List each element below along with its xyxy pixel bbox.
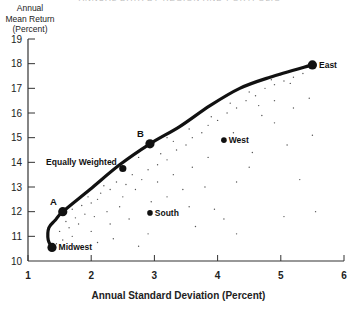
portfolio-dot bbox=[68, 227, 69, 228]
portfolio-dot bbox=[62, 239, 63, 240]
portfolio-dot bbox=[166, 159, 167, 160]
x-tick-label: 1 bbox=[25, 270, 31, 281]
portfolio-dot bbox=[94, 216, 95, 217]
portfolio-dot bbox=[302, 73, 303, 74]
portfolio-dot bbox=[211, 116, 212, 117]
portfolio-dot bbox=[91, 202, 92, 203]
portfolio-dot bbox=[261, 115, 262, 116]
label-west: West bbox=[229, 135, 249, 145]
portfolio-dot bbox=[182, 189, 183, 190]
portfolio-dot bbox=[109, 189, 110, 190]
label-east: East bbox=[319, 60, 337, 70]
portfolio-dot bbox=[91, 231, 92, 232]
portfolio-dot bbox=[75, 217, 76, 218]
portfolio-dot bbox=[59, 231, 60, 232]
y-tick-label: 16 bbox=[11, 108, 23, 119]
portfolio-dot bbox=[214, 209, 215, 210]
portfolio-dot bbox=[283, 80, 284, 81]
portfolio-dot bbox=[132, 174, 133, 175]
portfolio-dot bbox=[315, 211, 316, 212]
portfolio-dot bbox=[271, 79, 272, 80]
label-a: A bbox=[50, 196, 57, 207]
portfolio-dot bbox=[299, 179, 300, 180]
efficient-frontier-chart: 12345610111213141516171819 MidwestAEqual… bbox=[0, 0, 357, 313]
point-midwest bbox=[47, 243, 56, 252]
portfolio-dot bbox=[249, 167, 250, 168]
portfolio-dot bbox=[100, 192, 101, 193]
portfolio-dot bbox=[147, 233, 148, 234]
portfolio-dot bbox=[274, 122, 275, 123]
portfolio-dot bbox=[230, 102, 231, 103]
portfolio-dot bbox=[233, 132, 234, 133]
portfolio-dot bbox=[103, 185, 104, 186]
portfolio-dot bbox=[293, 107, 294, 108]
x-tick-label: 6 bbox=[341, 270, 347, 281]
y-tick-label: 12 bbox=[11, 206, 23, 217]
portfolio-dot bbox=[113, 238, 114, 239]
portfolio-dot bbox=[252, 152, 253, 153]
point-b bbox=[145, 139, 154, 148]
portfolio-dot bbox=[255, 95, 256, 96]
portfolio-dot bbox=[109, 223, 110, 224]
portfolio-dot bbox=[223, 218, 224, 219]
x-tick-label: 4 bbox=[215, 270, 221, 281]
portfolio-dot bbox=[138, 157, 139, 158]
portfolio-dot bbox=[157, 181, 158, 182]
portfolio-dot bbox=[72, 209, 73, 210]
y-tick-label: 19 bbox=[11, 34, 23, 45]
point-east bbox=[308, 60, 317, 69]
portfolio-dot bbox=[274, 100, 275, 101]
point-a bbox=[58, 207, 67, 216]
y-tick-label: 11 bbox=[12, 231, 23, 242]
portfolio-dot bbox=[173, 141, 174, 142]
portfolio-dot bbox=[264, 88, 265, 89]
portfolio-dot bbox=[65, 221, 66, 222]
portfolio-dot bbox=[309, 98, 310, 99]
portfolio-dot bbox=[312, 135, 313, 136]
portfolio-dot bbox=[188, 206, 189, 207]
portfolio-dot bbox=[72, 236, 73, 237]
portfolio-dot bbox=[106, 211, 107, 212]
portfolio-dot bbox=[84, 213, 85, 214]
portfolio-dot bbox=[78, 223, 79, 224]
portfolio-dot bbox=[226, 112, 227, 113]
portfolio-dot bbox=[201, 132, 202, 133]
portfolio-dot bbox=[293, 77, 294, 78]
y-tick-label: 14 bbox=[11, 157, 23, 168]
portfolio-dot bbox=[207, 157, 208, 158]
portfolio-dot bbox=[286, 144, 287, 145]
labeled-points: MidwestAEqually WeightedBSouthWestEast bbox=[46, 60, 337, 253]
portfolio-dot bbox=[249, 91, 250, 92]
y-tick-label: 15 bbox=[11, 132, 23, 143]
portfolio-dot bbox=[236, 233, 237, 234]
portfolio-dot bbox=[97, 242, 98, 243]
portfolio-dot bbox=[192, 167, 193, 168]
portfolio-dot bbox=[151, 201, 152, 202]
portfolio-dot bbox=[138, 246, 139, 247]
portfolio-dot bbox=[283, 216, 284, 217]
portfolio-dot bbox=[258, 105, 259, 106]
portfolio-dot bbox=[160, 153, 161, 154]
portfolio-dot bbox=[128, 218, 129, 219]
portfolio-dot bbox=[185, 144, 186, 145]
point-west bbox=[221, 137, 227, 143]
portfolio-dot bbox=[122, 196, 123, 197]
label-b: B bbox=[137, 128, 144, 139]
portfolio-dot bbox=[204, 186, 205, 187]
y-tick-label: 13 bbox=[11, 182, 23, 193]
portfolio-dot bbox=[119, 206, 120, 207]
portfolio-dot bbox=[81, 205, 82, 206]
label-equally-weighted: Equally Weighted bbox=[46, 157, 117, 167]
portfolio-dot bbox=[135, 189, 136, 190]
portfolio-dot bbox=[195, 226, 196, 227]
portfolio-dot bbox=[176, 149, 177, 150]
portfolio-dot bbox=[141, 179, 142, 180]
portfolio-dot bbox=[56, 243, 57, 244]
y-tick-label: 10 bbox=[11, 256, 23, 267]
label-midwest: Midwest bbox=[59, 242, 93, 252]
portfolio-dot bbox=[245, 100, 246, 101]
x-axis-label: Annual Standard Deviation (Percent) bbox=[0, 290, 357, 301]
portfolio-dot bbox=[236, 181, 237, 182]
portfolio-dot bbox=[274, 84, 275, 85]
portfolio-dot bbox=[166, 137, 167, 138]
